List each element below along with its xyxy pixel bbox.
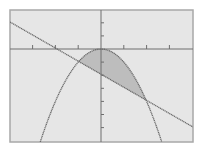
- graph-screen: [0, 0, 201, 153]
